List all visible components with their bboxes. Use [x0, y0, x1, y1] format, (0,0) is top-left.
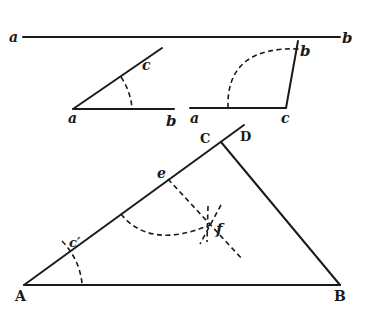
label-b-angle2: b — [300, 42, 311, 60]
label-a-angle2: a — [190, 110, 199, 126]
label-c-angle2: c — [281, 110, 290, 126]
label-b-angle1: b — [166, 112, 177, 130]
label-e: e — [157, 165, 166, 181]
label-c-angle1: c — [142, 57, 151, 73]
label-C: C — [200, 131, 210, 146]
label-c-prime: c′ — [69, 235, 81, 250]
label-A: A — [14, 288, 27, 304]
label-a-angle1: a — [68, 110, 77, 126]
copied-angle: a c b — [190, 41, 311, 126]
label-B: B — [334, 288, 346, 304]
triangle-construction: A B C D e f c′ — [14, 125, 346, 304]
label-a-top: a — [9, 29, 18, 45]
label-D: D — [240, 129, 251, 144]
label-f: f — [215, 220, 225, 238]
label-b-top: b — [342, 29, 353, 47]
construction-diagram: a b a b c a c b A B — [0, 0, 374, 326]
given-angle: a b c — [68, 48, 177, 130]
